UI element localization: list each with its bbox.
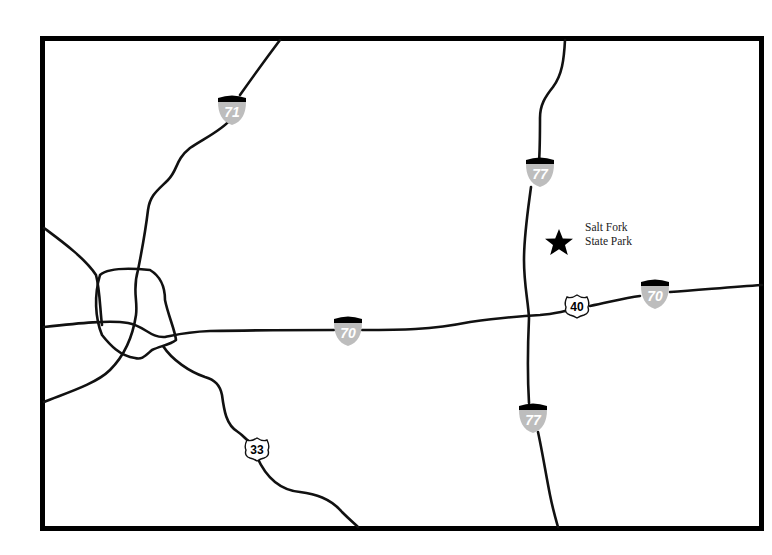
svg-text:40: 40 [570,300,584,314]
us-route-shield-40: 40 [565,295,589,318]
interstate-shield-71: 71 [218,96,246,126]
us-route-shield-33: 33 [245,438,269,461]
road-i71 [44,40,280,402]
svg-text:70: 70 [647,288,663,304]
road-i77-south [538,432,558,527]
interstate-shield-77-north: 77 [526,158,554,188]
road-i77-middle [524,187,531,403]
poi-label-line2: State Park [585,235,632,247]
interstate-shield-70-east: 70 [641,280,669,310]
interstate-shield-77-south: 77 [519,404,547,434]
road-us33 [163,346,358,527]
svg-text:77: 77 [525,412,542,428]
road-map: 71 77 77 70 70 40 33 Salt Fork State Par… [0,0,772,555]
svg-text:71: 71 [224,104,240,120]
road-i77-north [539,40,565,162]
interstate-shield-70-west: 70 [334,317,362,347]
poi-label-line1: Salt Fork [585,221,628,233]
svg-text:70: 70 [340,325,356,341]
svg-text:33: 33 [250,443,264,457]
road-northwest [44,228,102,325]
svg-text:77: 77 [532,166,549,182]
star-icon[interactable] [545,229,573,255]
